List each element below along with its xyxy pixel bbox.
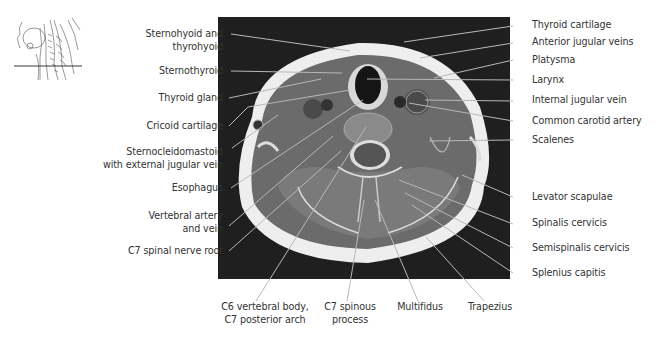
label-sternohyoid-thyrohyoid: Sternohyoid and thyrohyoid [146, 28, 223, 53]
label-line: Thyroid cartilage [532, 19, 611, 32]
label-line: Sternothyroid [159, 65, 223, 78]
label-spinalis-cervicis: Spinalis cervicis [532, 217, 607, 230]
label-line: Levator scapulae [532, 191, 612, 204]
label-line: Scalenes [532, 134, 574, 147]
label-thyroid-cartilage: Thyroid cartilage [532, 19, 611, 32]
label-line: Sternocleidomastoid [103, 146, 223, 159]
label-platysma: Platysma [532, 54, 575, 67]
label-line: C7 spinous [315, 301, 385, 314]
label-line: C7 spinal nerve root [128, 245, 223, 258]
label-sternothyroid: Sternothyroid [159, 65, 223, 78]
label-line: with external jugular vein [103, 159, 223, 172]
label-line: Semispinalis cervicis [532, 242, 629, 255]
label-c7-spinal-nerve-root: C7 spinal nerve root [128, 245, 223, 258]
sagittal-orientation-thumbnail [10, 14, 82, 82]
label-line: Multifidus [385, 301, 455, 314]
label-line: C6 vertebral body, [210, 301, 320, 314]
label-esophagus: Esophagus [172, 182, 223, 195]
label-splenius-capitis: Splenius capitis [532, 267, 605, 280]
label-multifidus: Multifidus [385, 301, 455, 314]
label-line: C7 posterior arch [210, 314, 320, 327]
label-line: Common carotid artery [532, 115, 642, 128]
anatomy-figure: Sternohyoid and thyrohyoid Sternothyroid… [0, 0, 658, 339]
label-anterior-jugular-veins: Anterior jugular veins [532, 36, 633, 49]
label-common-carotid-artery: Common carotid artery [532, 115, 642, 128]
label-line: Cricoid cartilage [146, 120, 223, 133]
label-line: Larynx [532, 74, 564, 87]
label-line: thyrohyoid [146, 41, 223, 54]
label-line: Internal jugular vein [532, 94, 627, 107]
label-line: process [315, 314, 385, 327]
label-line: Vertebral artery [149, 210, 223, 223]
label-cricoid-cartilage: Cricoid cartilage [146, 120, 223, 133]
label-line: Thyroid gland [158, 92, 223, 105]
label-semispinalis-cervicis: Semispinalis cervicis [532, 242, 629, 255]
label-internal-jugular-vein: Internal jugular vein [532, 94, 627, 107]
label-line: Platysma [532, 54, 575, 67]
label-trapezius: Trapezius [455, 301, 525, 314]
label-line: and vein [149, 223, 223, 236]
label-larynx: Larynx [532, 74, 564, 87]
label-line: Splenius capitis [532, 267, 605, 280]
label-line: Spinalis cervicis [532, 217, 607, 230]
label-c7-spinous-process: C7 spinous process [315, 301, 385, 326]
label-vertebral-artery-vein: Vertebral artery and vein [149, 210, 223, 235]
label-scalenes: Scalenes [532, 134, 574, 147]
label-line: Esophagus [172, 182, 223, 195]
label-line: Anterior jugular veins [532, 36, 633, 49]
axial-mri-image [218, 17, 510, 279]
label-levator-scapulae: Levator scapulae [532, 191, 612, 204]
label-sternocleidomastoid: Sternocleidomastoid with external jugula… [103, 146, 223, 171]
label-line: Trapezius [455, 301, 525, 314]
label-thyroid-gland: Thyroid gland [158, 92, 223, 105]
label-c6-vertebral-body: C6 vertebral body, C7 posterior arch [210, 301, 320, 326]
label-line: Sternohyoid and [146, 28, 223, 41]
